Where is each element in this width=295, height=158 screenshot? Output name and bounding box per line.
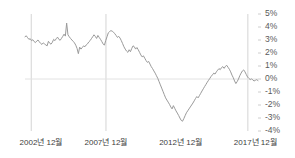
x-axis-label: 2007년 12월 [84,137,127,147]
x-axis-label: 2002년 12월 [20,137,63,147]
y-axis-label: 2% [265,47,278,57]
chart-canvas: 5%4%3%2%1%0%-1%-2%-3%-4% 2002년 12월2007년 … [0,0,295,158]
y-axis-label: -3% [265,112,281,122]
y-axis-label: 4% [265,21,278,31]
line-chart: 5%4%3%2%1%0%-1%-2%-3%-4% 2002년 12월2007년 … [0,0,295,158]
y-axis-label: 3% [265,34,278,44]
y-axis-label: 0% [265,73,278,83]
y-axis-label: 5% [265,8,278,18]
y-axis-label: -1% [265,86,281,96]
x-axis-label: 2017년 12월 [234,137,277,147]
y-axis-label: -4% [265,125,281,135]
y-axis-label: -2% [265,99,281,109]
y-axis-label: 1% [265,60,278,70]
x-axis-label: 2012년 12월 [159,137,202,147]
